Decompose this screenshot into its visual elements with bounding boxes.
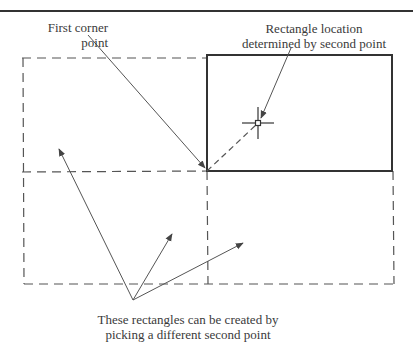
arrow-second-point — [261, 48, 291, 118]
label-line: Rectangle location — [226, 21, 402, 36]
created-rectangle — [207, 55, 392, 171]
label-rectangle-location: Rectangle location determined by second … — [226, 21, 402, 51]
arrow-alt-left — [59, 149, 133, 300]
label-line: picking a different second point — [72, 327, 304, 342]
label-line: First corner — [32, 20, 108, 35]
leader-arrows — [59, 35, 291, 300]
rubber-band-line — [207, 124, 257, 171]
label-line: determined by second point — [226, 36, 402, 51]
label-alternative-rectangles: These rectangles can be created by picki… — [72, 312, 304, 342]
label-line: point — [32, 35, 108, 50]
arrow-first-corner — [88, 35, 205, 168]
diagram-canvas — [0, 0, 413, 353]
label-first-corner-point: First corner point — [32, 20, 108, 50]
label-line: These rectangles can be created by — [72, 312, 304, 327]
